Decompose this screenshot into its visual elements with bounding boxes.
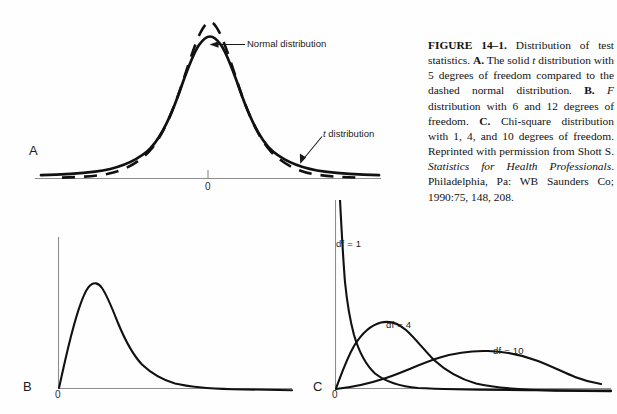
panel-a-plot	[0, 0, 400, 200]
chi-square-df10-label: df = 10	[493, 345, 524, 356]
caption-f-symbol: F	[595, 84, 614, 96]
panel-b-letter: B	[23, 379, 32, 394]
normal-distribution-annotation-text: Normal distribution	[247, 38, 326, 49]
t-distribution-annotation: t distribution	[323, 128, 374, 139]
panel-c-letter: C	[313, 379, 323, 394]
figure-number: FIGURE 14–1.	[428, 39, 507, 51]
panel-b-zero-label: 0	[55, 389, 61, 400]
f-distribution-curve	[59, 283, 292, 390]
caption-panel-a-text: The solid	[484, 54, 532, 66]
panel-a-letter: A	[29, 143, 38, 158]
caption-panel-a-tag: A.	[473, 54, 484, 66]
panel-b-plot	[0, 200, 300, 414]
chi-square-df1-label: df = 1	[336, 238, 361, 249]
chi-square-df4-label: df = 4	[386, 319, 411, 330]
caption-panel-c-tag: C.	[479, 115, 490, 127]
chi-square-df1-curve	[340, 200, 611, 391]
normal-distribution-arrowhead	[210, 41, 219, 47]
normal-distribution-annotation: Normal distribution	[247, 38, 326, 49]
t-distribution-leader-line	[303, 137, 322, 160]
t-distribution-annotation-text: distribution	[326, 128, 375, 139]
figure-caption: FIGURE 14–1. Distribution of test statis…	[428, 38, 614, 205]
panel-a-zero-label: 0	[205, 181, 211, 192]
panel-c-zero-label: 0	[332, 389, 338, 400]
caption-source-title: Statistics for Health Professionals	[428, 160, 611, 172]
panel-c-plot	[300, 200, 617, 414]
t-distribution-arrowhead	[300, 154, 306, 164]
chi-square-df10-curve	[336, 351, 601, 389]
figure-page: A 0 Normal distribution t distribution B…	[0, 0, 617, 414]
caption-panel-b-tag: B.	[584, 84, 594, 96]
t-distribution-curve	[41, 37, 379, 176]
